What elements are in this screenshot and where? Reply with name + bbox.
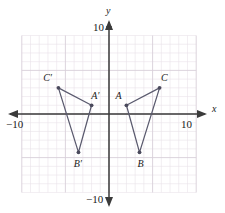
vertex-label-B-prime: B′: [74, 159, 82, 169]
x-axis-name: x: [212, 104, 216, 114]
x-axis-tick-neg10: −10: [6, 119, 23, 130]
coordinate-plane-figure: ABCA′B′C′10−10−1010yx: [0, 0, 225, 213]
plot-canvas: [0, 0, 225, 213]
vertex-label-A-prime: A′: [91, 91, 99, 101]
vertex-label-C: C: [161, 73, 168, 83]
vertex-label-C-prime: C′: [43, 73, 52, 83]
vertex-label-A: A: [116, 91, 122, 101]
y-axis-name: y: [106, 6, 110, 16]
vertex-label-B: B: [137, 159, 143, 169]
y-axis-tick-10: 10: [93, 22, 104, 33]
axes: [8, 20, 207, 207]
y-axis-tick-neg10: −10: [86, 194, 103, 205]
x-axis-tick-10: 10: [181, 119, 192, 130]
